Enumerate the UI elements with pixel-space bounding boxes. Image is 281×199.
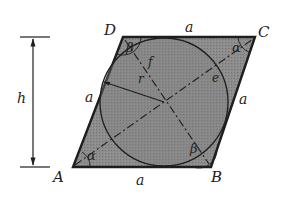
- side-label-bottom: a: [136, 172, 144, 188]
- side-label-left: a: [85, 89, 93, 105]
- side-label-right: a: [239, 91, 247, 107]
- angle-label-A: α: [87, 148, 96, 163]
- side-label-top: a: [185, 19, 193, 35]
- rhombus-diagram: h A B C D a a a a α α β β r f e: [0, 0, 281, 199]
- height-dimension: h: [17, 37, 50, 167]
- vertex-label-B: B: [210, 168, 222, 186]
- angle-label-B: β: [189, 141, 198, 156]
- diagonal-e-label: e: [212, 71, 219, 85]
- vertex-label-D: D: [103, 21, 116, 39]
- angle-label-D: β: [125, 40, 134, 55]
- angle-label-C: α: [232, 40, 241, 55]
- vertex-label-C: C: [258, 23, 270, 41]
- height-label: h: [17, 90, 26, 106]
- vertex-label-A: A: [51, 168, 64, 186]
